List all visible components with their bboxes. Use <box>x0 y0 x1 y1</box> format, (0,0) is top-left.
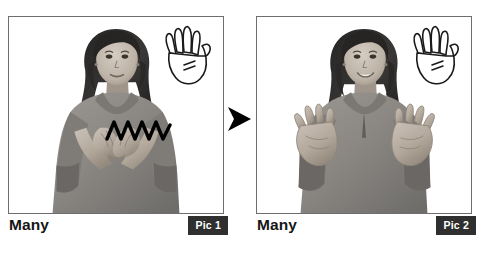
sign-word-label: Many <box>257 215 297 235</box>
pic-badge-1: Pic 1 <box>188 216 228 235</box>
caption-row-pic-1: Many Pic 1 <box>8 214 224 244</box>
open-hand-diagram-icon <box>157 23 215 91</box>
pic-badge-2: Pic 2 <box>436 216 476 235</box>
sign-word-label: Many <box>9 215 49 235</box>
sign-panel-pic-2 <box>256 16 472 214</box>
right-arrow-icon <box>227 106 252 132</box>
sign-language-figure: Many Pic 1 Many Pic 2 <box>0 0 496 261</box>
caption-row-pic-2: Many Pic 2 <box>256 214 472 244</box>
open-hand-diagram-icon <box>405 23 463 91</box>
sign-panel-pic-1 <box>8 16 224 214</box>
